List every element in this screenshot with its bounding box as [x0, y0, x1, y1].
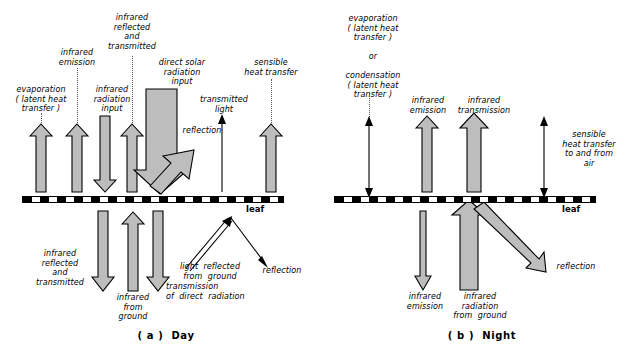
day-panel: evaporation ( latent heat transfer ) inf… — [0, 0, 312, 360]
arrow-infrared-reflected-transmitted — [121, 124, 143, 192]
arrow-sensible-heat-transfer — [260, 124, 282, 192]
leaf-bar-day — [22, 196, 284, 203]
arrow-infrared-transmission — [460, 113, 488, 192]
label-light-reflected-from-ground: light reflected from ground — [168, 262, 252, 281]
label-infrared-radiation-from-ground: infrared radiation from ground — [440, 292, 520, 321]
arrow-transmission-of-direct-radiation — [147, 211, 169, 291]
caption-day: ( a ) Day — [106, 330, 226, 341]
night-panel: evaporation ( latent heat transfer ) or … — [312, 0, 624, 360]
label-reflection-below-day: reflection — [254, 266, 310, 276]
leaf-bar-night — [334, 196, 596, 203]
arrow-light-reflected-head — [222, 216, 232, 227]
label-reflection-night: reflection — [546, 262, 606, 272]
label-infrared-from-ground: infrared from ground — [104, 293, 162, 322]
label-infrared-reflected-and-transmitted-down: infrared reflected and transmitted — [22, 249, 98, 287]
arrow-infrared-emission — [66, 124, 88, 192]
arrow-evaporation — [30, 124, 52, 192]
arrow-infrared-from-ground — [122, 212, 144, 291]
arrow-sensible-heat-air-head-up — [540, 116, 548, 126]
arrow-light-reflected-from-ground-a — [186, 218, 228, 268]
arrow-infrared-radiation-input — [94, 116, 116, 192]
arrow-evaporation-condensation-head-up — [365, 116, 373, 126]
arrow-reflection-night — [474, 202, 546, 272]
leaf-label-day: leaf — [246, 204, 264, 214]
label-transmission-of-direct-radiation: transmission of direct radiation — [166, 282, 276, 301]
leaf-label-night: leaf — [562, 204, 580, 214]
arrow-reflection-down-shaft — [231, 218, 264, 262]
arrow-infrared-emission-night — [416, 116, 438, 192]
caption-night: ( b ) Night — [422, 330, 542, 341]
arrow-transmitted-light-head — [218, 114, 226, 124]
arrow-infrared-emission-down-night — [415, 211, 431, 290]
